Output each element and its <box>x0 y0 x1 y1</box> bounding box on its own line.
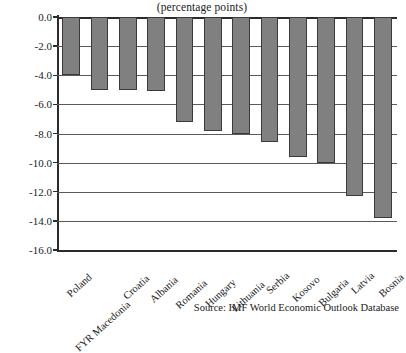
bar <box>147 17 165 91</box>
plot-area <box>57 17 397 250</box>
x-tick-label: Latvia <box>349 270 376 296</box>
bar <box>176 17 194 122</box>
bars-layer <box>57 17 397 250</box>
source-caption: Source: IMF World Economic Outlook Datab… <box>194 302 399 313</box>
y-tick-label: -12.0 <box>29 186 52 198</box>
bar <box>232 17 250 134</box>
x-tick-label: Serbia <box>264 270 291 296</box>
y-tick-label: -4.0 <box>35 69 52 81</box>
bar <box>261 17 279 142</box>
bar <box>204 17 222 131</box>
bar <box>289 17 307 157</box>
bar <box>119 17 137 90</box>
chart-title: (percentage points) <box>0 1 404 13</box>
bar <box>62 17 80 75</box>
bar <box>374 17 392 218</box>
x-axis-category-labels: PolandFYR MacedoniaCroatiaAlbaniaRomania… <box>57 252 397 307</box>
y-tick-label: -6.0 <box>35 98 52 110</box>
x-tick-label: Poland <box>65 272 94 300</box>
y-tick-label: -14.0 <box>29 215 52 227</box>
x-tick-label: Croatia <box>121 273 151 302</box>
bar <box>346 17 364 196</box>
bar <box>91 17 109 90</box>
y-tick-label: 0.0 <box>38 11 52 23</box>
y-tick-label: -10.0 <box>29 157 52 169</box>
bar <box>317 17 335 163</box>
y-tick-label: -8.0 <box>35 128 52 140</box>
x-tick-label: Bosnia <box>377 272 406 300</box>
y-tick-label: -2.0 <box>35 40 52 52</box>
x-tick-label: FYR Macedonia <box>73 299 132 353</box>
y-tick-label: -16.0 <box>29 244 52 256</box>
